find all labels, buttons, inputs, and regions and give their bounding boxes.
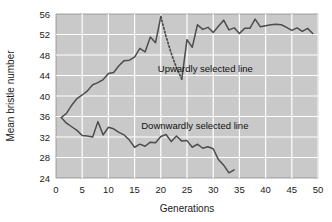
x-tick-label: 15	[129, 184, 140, 195]
x-tick-label: 5	[80, 184, 85, 195]
x-axis-title: Generations	[160, 203, 214, 214]
y-tick-labels: 242832364044485256	[39, 9, 50, 184]
y-tick-label: 32	[39, 132, 50, 143]
y-tick-label: 52	[39, 29, 50, 40]
bristle-number-line-chart: 05101520253035404550 242832364044485256 …	[0, 0, 332, 222]
y-tick-label: 56	[39, 9, 50, 20]
x-tick-label: 35	[234, 184, 245, 195]
figure-container: 05101520253035404550 242832364044485256 …	[0, 0, 332, 222]
x-tick-label: 40	[260, 184, 271, 195]
x-tick-label: 10	[103, 184, 114, 195]
x-tick-label: 20	[156, 184, 167, 195]
downward-series-label: Downwardly selected line	[141, 120, 248, 131]
y-axis-title: Mean bristle number	[5, 50, 16, 142]
upward-series-label: Upwardly selected line	[158, 63, 253, 74]
y-tick-label: 44	[39, 70, 50, 81]
x-tick-label: 0	[53, 184, 58, 195]
x-tick-labels: 05101520253035404550	[53, 184, 323, 195]
x-tick-label: 45	[287, 184, 298, 195]
x-tick-label: 30	[208, 184, 219, 195]
y-tick-label: 36	[39, 111, 50, 122]
x-tick-label: 25	[182, 184, 193, 195]
y-tick-label: 48	[39, 50, 50, 61]
y-tick-label: 40	[39, 91, 50, 102]
y-tick-label: 28	[39, 152, 50, 163]
x-tick-label: 50	[313, 184, 324, 195]
y-tick-label: 24	[39, 173, 50, 184]
